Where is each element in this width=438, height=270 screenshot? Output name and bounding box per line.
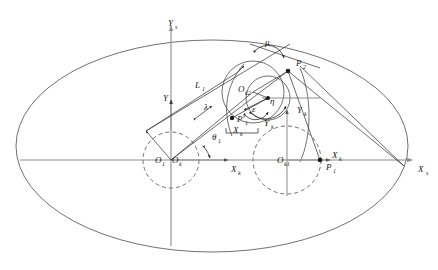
label-angle-theta1-sub: 1 (218, 138, 221, 144)
connector-ok2-ok2inner (253, 92, 268, 98)
label-rotated-x-axis: X (232, 125, 239, 135)
label-local-x-axis-left-sub: k (238, 170, 241, 176)
label-angle-theta1: θ (212, 132, 217, 142)
label-local-y-axis-left: Y (163, 93, 169, 103)
label-center-ok2-sub: k2 (245, 90, 251, 96)
link-arrow-inner-b (244, 98, 268, 110)
node-p1 (318, 158, 323, 163)
label-center-ok2: O (238, 84, 245, 94)
label-length-l1-sub: 1 (202, 86, 205, 92)
label-point-p2-sub: 2 (303, 64, 306, 70)
label-local-y-axis-left-sub: k (170, 99, 173, 105)
label-rotated-x-axis-sub: k (240, 131, 243, 137)
label-angle-epsilon: ε (252, 104, 256, 114)
label-origin-o1: O (155, 155, 162, 165)
label-global-y-axis: Y (168, 18, 174, 28)
ray-origin-to-ok2 (171, 92, 253, 160)
label-global-x-axis-sub: s (426, 170, 429, 176)
label-origin-ok: O (172, 155, 179, 165)
label-center-ok1-sub: k1 (284, 161, 290, 167)
diagram-canvas: X s Y s X k Y k X k Y k X k Y k O 1 O k … (0, 0, 438, 270)
outer-ellipse (16, 40, 408, 252)
line-l1-parallel (146, 72, 238, 131)
node-p2 (286, 69, 291, 74)
label-point-p1: P (325, 162, 332, 172)
label-local-x-axis-right: X (331, 150, 338, 160)
label-point-p1-sub: 1 (333, 168, 336, 174)
label-angle-eta: η (270, 96, 275, 106)
label-rotated-y-axis: Y (264, 118, 270, 128)
label-local-y-axis-right-sub: k (304, 111, 307, 117)
ray-origin-to-p2 (171, 71, 288, 160)
label-rotated-y-axis-sub: k (271, 124, 274, 130)
label-global-x-axis: X (417, 164, 424, 174)
node-p1-prime (230, 116, 234, 120)
label-local-x-axis-right-sub: k (339, 156, 342, 162)
link-arrow-upper (238, 66, 244, 72)
label-angle-mu: μ (264, 37, 270, 47)
label-local-x-axis-left: X (230, 164, 237, 174)
angle-arc-theta1 (205, 148, 210, 158)
label-length-l1: L (194, 80, 200, 90)
label-origin-o1-sub: 1 (162, 161, 165, 167)
label-point-p2: P (295, 58, 302, 68)
label-origin-ok-sub: k (179, 161, 182, 167)
label-center-ok1: O (277, 155, 284, 165)
ray-p2-upper-to-right (300, 66, 404, 166)
label-global-y-axis-sub: s (175, 24, 178, 30)
figure-container: X s Y s X k Y k X k Y k X k Y k O 1 O k … (0, 0, 438, 270)
label-point-p1-prime-sub: 1 (245, 120, 248, 126)
label-length-lambda: λ (203, 102, 208, 112)
